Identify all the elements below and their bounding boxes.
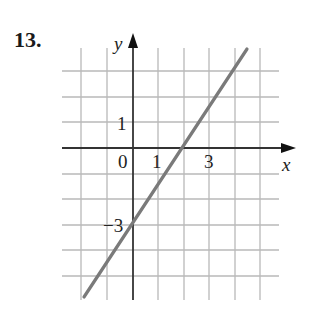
x-axis-label: x [282, 155, 290, 174]
grid [62, 48, 279, 300]
plotted-line [84, 49, 247, 297]
origin-label: 0 [118, 152, 128, 171]
x-tick-label-3: 3 [204, 152, 214, 171]
x-axis-arrow-icon [281, 143, 296, 153]
y-tick-label-neg3: −3 [103, 216, 123, 235]
x-tick-label-1: 1 [152, 152, 162, 171]
y-axis [128, 33, 138, 300]
y-axis-arrow-icon [128, 33, 138, 48]
y-tick-label-1: 1 [117, 114, 127, 133]
y-axis-label: y [114, 34, 122, 53]
